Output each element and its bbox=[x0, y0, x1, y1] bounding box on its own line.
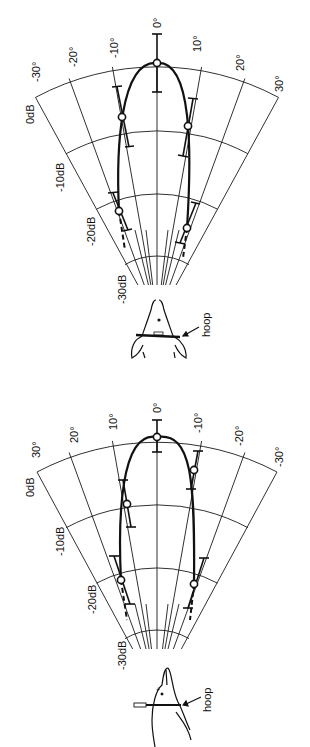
svg-text:+: + bbox=[156, 686, 160, 693]
svg-text:-30dB: -30dB bbox=[116, 641, 128, 670]
svg-text:10°: 10° bbox=[107, 413, 119, 430]
svg-text:10°: 10° bbox=[191, 35, 203, 52]
hoop-label-lower: hoop bbox=[201, 688, 213, 712]
svg-text:30°: 30° bbox=[30, 441, 42, 458]
svg-text:30°: 30° bbox=[273, 75, 285, 92]
lower-beam-diagram: 30° 20° 10° 0° -10° -20° -30° 0dB -10dB … bbox=[24, 402, 285, 747]
svg-text:0°: 0° bbox=[151, 402, 163, 413]
svg-text:0dB: 0dB bbox=[24, 104, 36, 124]
hoop-label-upper: hoop bbox=[200, 313, 212, 337]
svg-text:0°: 0° bbox=[151, 17, 163, 28]
svg-text:-20°: -20° bbox=[67, 47, 79, 67]
svg-text:20°: 20° bbox=[68, 426, 80, 443]
svg-text:-10dB: -10dB bbox=[54, 527, 66, 556]
svg-text:-10°: -10° bbox=[108, 38, 120, 58]
svg-text:-10°: -10° bbox=[192, 413, 204, 433]
svg-text:-30°: -30° bbox=[273, 447, 285, 467]
svg-text:0dB: 0dB bbox=[24, 477, 36, 497]
db-labels-upper: 0dB -10dB -20dB -30dB bbox=[24, 104, 128, 304]
db-labels-lower: 0dB -10dB -20dB -30dB bbox=[24, 477, 128, 670]
polar-grid-upper bbox=[36, 63, 279, 320]
svg-text:-20dB: -20dB bbox=[85, 217, 97, 246]
svg-text:-30°: -30° bbox=[30, 62, 42, 82]
upper-beam-diagram: -30° -20° -10° 0° 10° 20° 30° 0dB -10dB … bbox=[24, 17, 285, 358]
beam-pattern-figure: -30° -20° -10° 0° 10° 20° 30° 0dB -10dB … bbox=[0, 0, 310, 747]
svg-text:-20°: -20° bbox=[233, 426, 245, 446]
svg-text:-30dB: -30dB bbox=[116, 275, 128, 304]
svg-text:20°: 20° bbox=[234, 54, 246, 71]
svg-text:-20dB: -20dB bbox=[86, 585, 98, 614]
svg-text:-10dB: -10dB bbox=[54, 163, 66, 192]
